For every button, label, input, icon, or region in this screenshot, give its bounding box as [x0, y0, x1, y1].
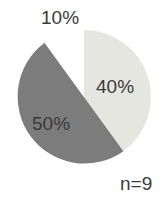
slice-label-10: 10% — [41, 7, 79, 28]
pie-chart: 10% 40% 50% n=9 — [0, 0, 166, 197]
sample-size-annotation: n=9 — [120, 173, 152, 194]
slice-label-40: 40% — [96, 76, 134, 97]
slice-label-50: 50% — [32, 113, 70, 134]
